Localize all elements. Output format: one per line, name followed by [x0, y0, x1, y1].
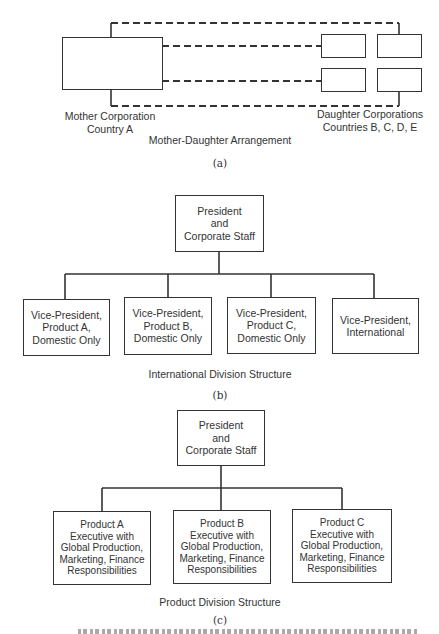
vp-international-box: Vice-President, International [332, 298, 419, 354]
product-division-connectors [102, 465, 342, 511]
daughter-corporation-box-d [321, 68, 366, 92]
vp-product-c-text: Vice-President, Product C, Domestic Only [236, 307, 307, 345]
cropped-caption-strip [78, 629, 418, 634]
diagram-a-tag: (a) [200, 157, 240, 170]
product-c-executive-text: Product C Executive with Global Producti… [299, 517, 384, 575]
product-a-executive-text: Product A Executive with Global Producti… [59, 519, 144, 577]
vp-international-text: Vice-President, International [340, 314, 411, 339]
president-box-c-text: President and Corporate Staff [185, 419, 256, 457]
daughter-corporations-label: Daughter Corporations Countries B, C, D,… [310, 108, 430, 133]
diagram-b-title: International Division Structure [110, 368, 330, 381]
product-b-executive-box: Product B Executive with Global Producti… [173, 510, 271, 584]
mother-corporation-label: Mother Corporation Country A [60, 110, 160, 135]
president-box-c: President and Corporate Staff [177, 410, 265, 466]
diagram-c-tag: (c) [200, 614, 240, 627]
president-box-b-text: President and Corporate Staff [184, 205, 255, 243]
product-c-executive-box: Product C Executive with Global Producti… [292, 509, 392, 583]
vp-product-c-box: Vice-President, Product C, Domestic Only [227, 297, 316, 354]
diagram-c-title: Product Division Structure [120, 596, 320, 609]
vp-product-b-text: Vice-President, Product B, Domestic Only [132, 307, 203, 345]
vp-product-a-text: Vice-President, Product A, Domestic Only [31, 309, 102, 347]
vp-product-b-box: Vice-President, Product B, Domestic Only [124, 297, 212, 355]
product-a-executive-box: Product A Executive with Global Producti… [53, 511, 151, 585]
president-box-b: President and Corporate Staff [175, 195, 264, 252]
international-division-connectors [65, 251, 374, 299]
mother-corporation-box [62, 37, 163, 90]
diagram-a-title: Mother-Daughter Arrangement [120, 134, 320, 147]
product-b-executive-text: Product B Executive with Global Producti… [179, 518, 264, 576]
vp-product-a-box: Vice-President, Product A, Domestic Only [23, 299, 110, 356]
diagram-b-tag: (b) [200, 389, 240, 402]
daughter-corporation-box-c [377, 34, 422, 58]
daughter-corporation-box-b [321, 34, 366, 58]
daughter-corporation-box-e [377, 68, 422, 92]
